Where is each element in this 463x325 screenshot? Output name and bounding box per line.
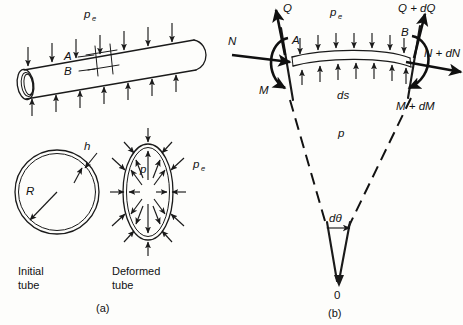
element-bottom-pressure-arrows xyxy=(302,63,406,85)
shell-left-end xyxy=(292,57,293,66)
tube-pe-subscript: e xyxy=(92,14,96,23)
deformed-tube-caption-line2: tube xyxy=(112,279,133,291)
deformed-internal-pressure-label: p xyxy=(139,163,147,175)
element-pe-label: p xyxy=(329,6,337,18)
element-pe-subscript: e xyxy=(338,12,342,21)
arc-length-label: ds xyxy=(337,89,349,101)
deformed-external-pressure-label: p xyxy=(192,158,200,170)
normal-right-arrow xyxy=(406,62,461,72)
center-label: 0 xyxy=(334,289,340,301)
angle-label: dθ xyxy=(329,212,342,224)
figure-container: p e A B R h Initial tube xyxy=(0,0,463,325)
shell-outer-arc xyxy=(292,50,410,58)
vertex-arrowhead xyxy=(334,275,344,287)
shear-left-arrow xyxy=(276,10,285,55)
panel-a-initial-tube-section: R h Initial tube xyxy=(15,140,99,291)
tube-element-label-b: B xyxy=(64,65,72,77)
tube-right-cap xyxy=(194,40,206,70)
radial-line-right xyxy=(348,98,411,228)
tube-top-edge xyxy=(24,40,194,70)
tube-bottom-pressure-arrows xyxy=(32,75,176,116)
deformed-tube-caption-line1: Deformed xyxy=(112,265,160,277)
initial-tube-caption-line1: Initial xyxy=(18,265,44,277)
vertex-line-left xyxy=(327,222,337,281)
tube-top-pressure-arrows xyxy=(28,23,172,66)
normal-left-arrow xyxy=(232,55,290,62)
thickness-arrow xyxy=(85,153,97,168)
vertex-line-right xyxy=(339,222,350,281)
panel-a-deformed-tube-section: p p e Deformed tube xyxy=(110,128,205,291)
element-internal-pressure-label: p xyxy=(337,127,345,139)
deformed-internal-pressure-arrows xyxy=(129,151,167,233)
tube-element-label-a: A xyxy=(63,50,72,62)
panel-a-tube-3d: p e A B xyxy=(15,8,206,116)
engineering-diagram-svg: p e A B R h Initial tube xyxy=(0,0,463,325)
tube-surface-element-grid xyxy=(86,44,119,76)
panel-a-caption: (a) xyxy=(96,302,109,314)
radius-label: R xyxy=(26,185,34,197)
moment-left-arc xyxy=(271,38,288,88)
panel-b-caption: (b) xyxy=(328,307,341,319)
section-label-a: A xyxy=(291,34,300,46)
tube-bottom-edge xyxy=(26,70,196,99)
normal-left-label: N xyxy=(228,35,237,47)
moment-left-label: M xyxy=(259,84,269,96)
shear-right-label: Q + dQ xyxy=(398,2,435,14)
initial-tube-caption-line2: tube xyxy=(18,279,39,291)
panel-b-shell-element: p e ds p Q N M A Q + xyxy=(228,2,461,301)
shell-inner-arc xyxy=(293,59,411,67)
leader-line-b xyxy=(79,69,95,71)
moment-right-label: M + dM xyxy=(396,100,435,112)
section-label-b: B xyxy=(401,26,409,38)
thickness-arrow-inner xyxy=(74,168,82,183)
tube-pe-label: p xyxy=(83,8,91,20)
shear-left-label: Q xyxy=(283,2,292,14)
deformed-external-pressure-subscript: e xyxy=(201,164,205,173)
thickness-label: h xyxy=(84,140,90,152)
radial-line-left xyxy=(290,100,327,228)
